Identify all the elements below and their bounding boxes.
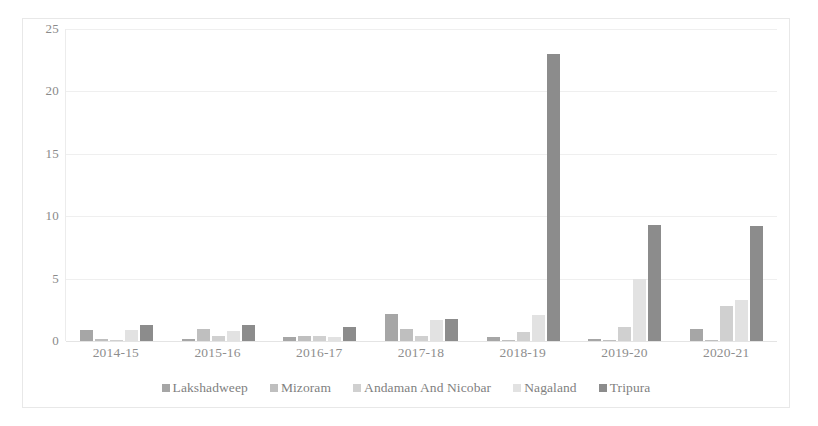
legend-swatch-icon [513, 384, 521, 392]
bar[interactable] [502, 340, 515, 341]
bar[interactable] [197, 329, 210, 341]
bar[interactable] [517, 332, 530, 341]
legend-item[interactable]: Tripura [599, 380, 651, 396]
bar[interactable] [110, 340, 123, 341]
gridline [66, 341, 777, 342]
bar[interactable] [735, 300, 748, 341]
legend-item-label: Mizoram [281, 380, 331, 396]
bar[interactable] [140, 325, 153, 341]
y-axis-tick-label: 25 [46, 21, 59, 37]
x-axis-tick-label: 2017-18 [370, 345, 472, 367]
y-axis-tick-label: 20 [46, 83, 59, 99]
y-axis-tick-label: 5 [52, 271, 59, 287]
plot-wrapper: 2520151050 2014-152015-162016-172017-182… [23, 19, 789, 407]
bar[interactable] [313, 336, 326, 341]
legend-item-label: Lakshadweep [173, 380, 248, 396]
x-axis-tick-label: 2016-17 [268, 345, 370, 367]
bar[interactable] [80, 330, 93, 341]
y-axis-tick-label: 0 [52, 333, 59, 349]
bar[interactable] [618, 327, 631, 341]
legend-swatch-icon [599, 384, 607, 392]
bar-group [269, 29, 371, 341]
bar[interactable] [690, 329, 703, 341]
legend-item-label: Nagaland [524, 380, 577, 396]
bar-groups [66, 29, 777, 341]
bar[interactable] [283, 337, 296, 341]
bar[interactable] [633, 279, 646, 341]
bar[interactable] [212, 336, 225, 341]
x-axis-tick-label: 2015-16 [167, 345, 269, 367]
bar[interactable] [532, 315, 545, 341]
bar[interactable] [547, 54, 560, 341]
bar-group [371, 29, 473, 341]
bar-group [168, 29, 270, 341]
bar-group [66, 29, 168, 341]
legend-item[interactable]: Lakshadweep [162, 380, 248, 396]
bar[interactable] [445, 319, 458, 341]
chart-container: 2520151050 2014-152015-162016-172017-182… [22, 18, 790, 408]
bar[interactable] [750, 226, 763, 341]
bar[interactable] [588, 339, 601, 341]
bar[interactable] [182, 339, 195, 341]
bar[interactable] [648, 225, 661, 341]
y-axis-tick-label: 15 [46, 146, 59, 162]
bar-group [574, 29, 676, 341]
bar[interactable] [95, 339, 108, 341]
bar[interactable] [125, 330, 138, 341]
legend-swatch-icon [270, 384, 278, 392]
legend-item-label: Andaman And Nicobar [364, 380, 491, 396]
legend-item-label: Tripura [610, 380, 651, 396]
plot-area [65, 29, 777, 341]
bar[interactable] [343, 327, 356, 341]
x-axis-tick-label: 2014-15 [65, 345, 167, 367]
bar[interactable] [400, 329, 413, 341]
bar[interactable] [298, 336, 311, 341]
bar[interactable] [385, 314, 398, 341]
bar-group [675, 29, 777, 341]
bar[interactable] [242, 325, 255, 341]
y-axis-tick-label: 10 [46, 208, 59, 224]
bar[interactable] [430, 320, 443, 341]
bar[interactable] [227, 331, 240, 341]
bar-group [472, 29, 574, 341]
x-axis: 2014-152015-162016-172017-182018-192019-… [65, 345, 777, 367]
x-axis-tick-label: 2019-20 [574, 345, 676, 367]
legend-item[interactable]: Andaman And Nicobar [353, 380, 491, 396]
bar[interactable] [487, 337, 500, 341]
legend-item[interactable]: Mizoram [270, 380, 331, 396]
bar[interactable] [328, 337, 341, 341]
legend-swatch-icon [353, 384, 361, 392]
x-axis-tick-label: 2020-21 [675, 345, 777, 367]
bar[interactable] [603, 340, 616, 341]
legend-item[interactable]: Nagaland [513, 380, 577, 396]
bar[interactable] [415, 336, 428, 341]
y-axis: 2520151050 [23, 19, 65, 359]
bar[interactable] [705, 340, 718, 341]
bar[interactable] [720, 306, 733, 341]
x-axis-tick-label: 2018-19 [472, 345, 574, 367]
legend-swatch-icon [162, 384, 170, 392]
chart-legend: LakshadweepMizoramAndaman And NicobarNag… [23, 377, 789, 399]
